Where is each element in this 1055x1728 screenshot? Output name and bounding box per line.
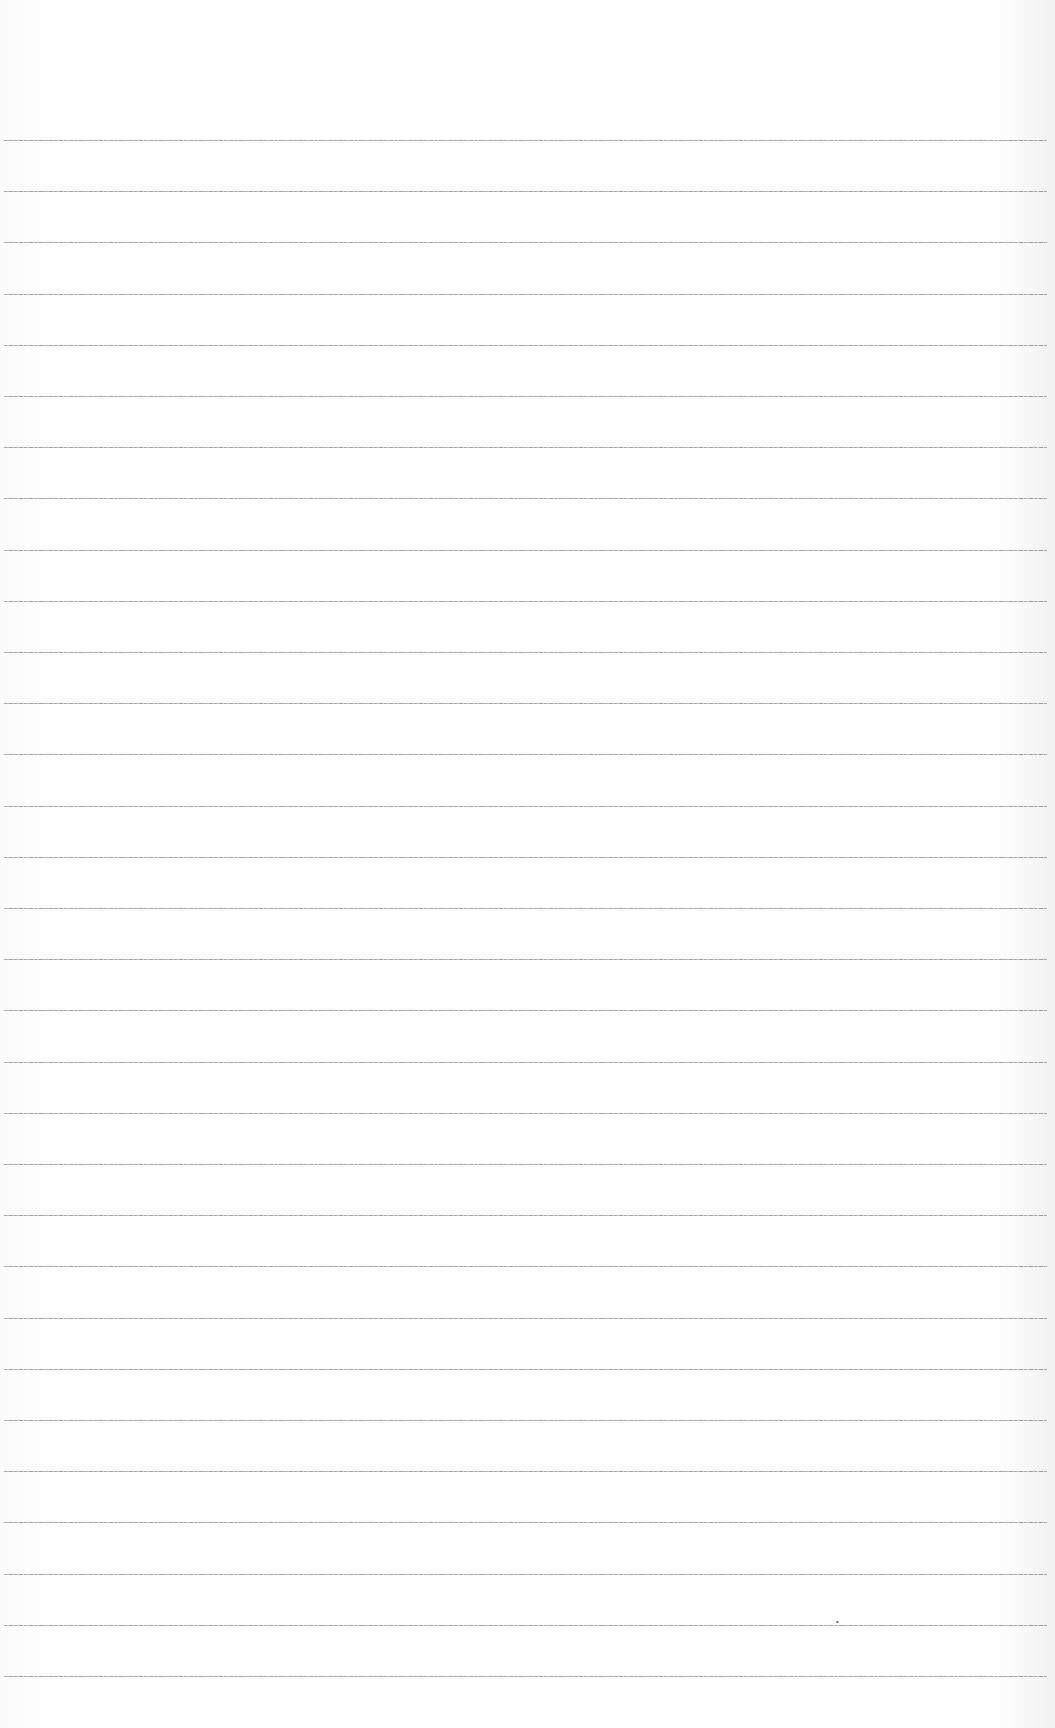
ruled-line <box>4 498 1047 499</box>
ruled-line <box>4 396 1047 397</box>
ruled-line <box>4 550 1047 551</box>
pen-mark: • <box>836 1618 838 1625</box>
ruled-line <box>4 601 1047 602</box>
ruled-line <box>4 242 1047 243</box>
ruled-line <box>4 1010 1047 1011</box>
ruled-line <box>4 1215 1047 1216</box>
ruled-line <box>4 703 1047 704</box>
ruled-line <box>4 1676 1047 1677</box>
ruled-line <box>4 1522 1047 1523</box>
ruled-line <box>4 1113 1047 1114</box>
ruled-line <box>4 1420 1047 1421</box>
ruled-line <box>4 140 1047 141</box>
ruled-line <box>4 908 1047 909</box>
ruled-line <box>4 754 1047 755</box>
ruled-line <box>4 1471 1047 1472</box>
ruled-line <box>4 652 1047 653</box>
ruled-line <box>4 857 1047 858</box>
lined-paper-sheet: • <box>0 0 1055 1728</box>
ruled-line <box>4 1266 1047 1267</box>
ruled-line <box>4 1164 1047 1165</box>
ruled-line <box>4 1625 1047 1626</box>
ruled-line <box>4 345 1047 346</box>
ruled-line <box>4 1369 1047 1370</box>
ruled-line <box>4 447 1047 448</box>
ruled-line <box>4 959 1047 960</box>
ruled-line <box>4 1574 1047 1575</box>
ruled-line <box>4 294 1047 295</box>
ruled-line <box>4 191 1047 192</box>
ruled-line <box>4 1318 1047 1319</box>
ruled-line <box>4 806 1047 807</box>
ruled-line <box>4 1062 1047 1063</box>
